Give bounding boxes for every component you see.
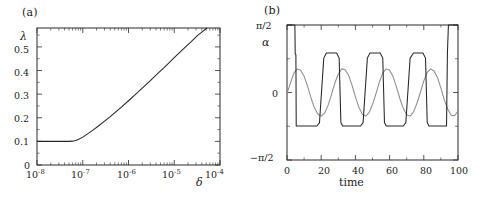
curve-lambda-vs-delta	[37, 28, 207, 141]
panel-a: (a) λ δ 0 0.1 0.2 0.3 0.4 0.5 10-8 10-7 …	[0, 0, 246, 198]
figure-container: (a) λ δ 0 0.1 0.2 0.3 0.4 0.5 10-8 10-7 …	[0, 0, 492, 198]
panel-a-plot	[0, 0, 246, 198]
panel-a-frame	[37, 28, 220, 165]
panel-b: (b) α time π/2 0 −π/2 0 20 40 60 80 100	[246, 0, 492, 198]
panel-b-frame	[287, 25, 458, 160]
curve-square-wave-alpha	[287, 25, 458, 126]
curve-smooth-oscillation-alpha	[287, 69, 458, 116]
panel-b-plot	[246, 0, 492, 198]
